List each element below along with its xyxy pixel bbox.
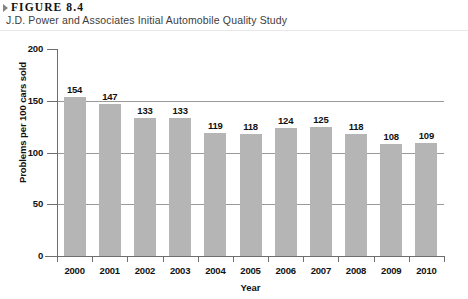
bar-value-label: 133 (163, 105, 197, 116)
x-axis-tick (303, 256, 304, 262)
bar-value-label: 133 (128, 105, 162, 116)
x-axis-tick (198, 256, 199, 262)
header-divider (0, 30, 468, 31)
bar-value-label: 147 (93, 91, 127, 102)
bar-value-label: 124 (269, 115, 303, 126)
x-axis-tick-label: 2003 (160, 265, 200, 276)
bar (310, 127, 332, 256)
x-axis-tick (409, 256, 410, 262)
bar (240, 134, 262, 256)
x-axis-tick-label: 2005 (231, 265, 271, 276)
bar (275, 128, 297, 256)
bar-value-label: 108 (374, 131, 408, 142)
x-axis-tick (163, 256, 164, 262)
bar (64, 97, 86, 256)
x-axis-tick-label: 2004 (195, 265, 235, 276)
bar (345, 134, 367, 256)
bars-group: 154147133133119118124125118108109 (0, 32, 468, 299)
bar-value-label: 118 (234, 121, 268, 132)
x-axis-title: Year (57, 282, 444, 293)
x-axis-tick (268, 256, 269, 262)
x-axis-tick-label: 2007 (301, 265, 341, 276)
bar (99, 104, 121, 256)
bar-value-label: 109 (409, 130, 443, 141)
figure-label-row: FIGURE 8.4 (3, 1, 84, 13)
bar (380, 144, 402, 256)
x-axis-tick-label: 2006 (266, 265, 306, 276)
x-axis-tick (444, 256, 445, 262)
x-axis-tick (127, 256, 128, 262)
x-axis-tick-label: 2001 (90, 265, 130, 276)
x-axis-tick (92, 256, 93, 262)
x-axis-tick-label: 2000 (55, 265, 95, 276)
bar-value-label: 125 (304, 114, 338, 125)
bar (134, 118, 156, 256)
figure-subtitle: J.D. Power and Associates Initial Automo… (6, 14, 287, 26)
figure-number: FIGURE 8.4 (11, 1, 84, 13)
x-axis-tick-label: 2009 (371, 265, 411, 276)
bar-value-label: 118 (339, 121, 373, 132)
x-axis-tick-label: 2008 (336, 265, 376, 276)
x-axis-tick (233, 256, 234, 262)
bar-chart: Problems per 100 cars sold 050100150200 … (0, 32, 468, 299)
x-axis-tick (374, 256, 375, 262)
bar-value-label: 119 (198, 120, 232, 131)
x-axis-tick-label: 2010 (406, 265, 446, 276)
x-axis-tick (57, 256, 58, 262)
x-axis-tick (338, 256, 339, 262)
bar (169, 118, 191, 256)
bar-value-label: 154 (58, 84, 92, 95)
triangle-right-icon (3, 4, 8, 12)
x-axis-tick-label: 2002 (125, 265, 165, 276)
bar (415, 143, 437, 256)
bar (204, 133, 226, 256)
